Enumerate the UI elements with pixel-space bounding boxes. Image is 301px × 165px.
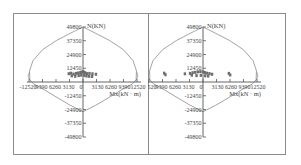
data-point bbox=[95, 73, 97, 76]
data-point bbox=[70, 72, 72, 75]
x-tick-label: 6260 bbox=[169, 84, 181, 90]
x-tick-label: 3130 bbox=[92, 84, 104, 90]
x-tick-label: -12520 bbox=[20, 84, 37, 90]
x-tick-label: 9390 bbox=[239, 84, 251, 90]
y-tick-label: 24900 bbox=[187, 52, 202, 58]
data-point bbox=[83, 74, 85, 77]
x-tick-label: 12520 bbox=[251, 84, 266, 90]
data-point bbox=[204, 74, 206, 77]
y-tick-label: -37350 bbox=[65, 120, 82, 126]
data-point bbox=[204, 71, 206, 74]
x-tick-label: 0 bbox=[80, 84, 83, 90]
y-tick-label: -24900 bbox=[65, 107, 82, 113]
data-point bbox=[91, 75, 93, 78]
x-tick-label: 3130 bbox=[63, 84, 75, 90]
data-point bbox=[200, 74, 202, 77]
x-tick-label: 9390 bbox=[36, 84, 48, 90]
data-point bbox=[191, 74, 193, 77]
y-tick-label: -24900 bbox=[185, 107, 202, 113]
x-axis-title: Mx(kN · m) bbox=[109, 90, 141, 98]
y-tick-label: 37350 bbox=[187, 38, 202, 44]
data-point bbox=[68, 72, 70, 75]
data-point bbox=[229, 73, 231, 76]
y-tick-label: -49800 bbox=[65, 134, 82, 140]
x-tick-label: 3130 bbox=[183, 84, 195, 90]
data-point bbox=[184, 72, 186, 75]
data-point bbox=[75, 72, 77, 75]
data-point bbox=[195, 74, 197, 77]
y-tick-label: 49800 bbox=[67, 24, 82, 30]
data-point bbox=[197, 70, 199, 73]
data-point bbox=[88, 75, 90, 78]
x-tick-label: 0 bbox=[200, 84, 203, 90]
y-tick-label: 12450 bbox=[67, 65, 82, 71]
data-point bbox=[199, 70, 201, 73]
data-point bbox=[207, 75, 209, 78]
chart-left: 49800373502490012450-12450-24900-37350-4… bbox=[0, 0, 150, 165]
data-point bbox=[77, 71, 79, 74]
y-tick-label: -49800 bbox=[185, 134, 202, 140]
x-tick-label: 9390 bbox=[119, 84, 131, 90]
y-tick-label: 37350 bbox=[67, 38, 82, 44]
data-point bbox=[71, 74, 73, 77]
y-tick-label: -12450 bbox=[185, 93, 202, 99]
y-tick-label: -12450 bbox=[65, 93, 82, 99]
y-axis-title: N(KN) bbox=[87, 22, 105, 30]
data-point bbox=[91, 72, 93, 75]
data-point bbox=[77, 74, 79, 77]
x-tick-label: 12520 bbox=[131, 84, 146, 90]
data-point bbox=[194, 71, 196, 74]
y-tick-label: 49800 bbox=[187, 24, 202, 30]
y-axis-title: N(KN) bbox=[207, 22, 225, 30]
data-point bbox=[211, 73, 213, 76]
x-axis-title: Mx(kN · m) bbox=[229, 90, 261, 98]
y-tick-label: -37350 bbox=[185, 120, 202, 126]
x-tick-label: 6260 bbox=[49, 84, 61, 90]
data-point bbox=[88, 72, 90, 75]
y-tick-label: 24900 bbox=[67, 52, 82, 58]
x-tick-label: 9390 bbox=[156, 84, 168, 90]
data-point bbox=[85, 75, 87, 78]
data-point bbox=[164, 73, 166, 76]
data-point bbox=[80, 74, 82, 77]
chart-right: 49800373502490012450-12450-24900-37350-4… bbox=[148, 0, 298, 165]
data-point bbox=[206, 72, 208, 75]
data-point bbox=[74, 75, 76, 78]
x-tick-label: 6260 bbox=[105, 84, 117, 90]
x-tick-label: 6260 bbox=[225, 84, 237, 90]
x-tick-label: 3130 bbox=[212, 84, 224, 90]
